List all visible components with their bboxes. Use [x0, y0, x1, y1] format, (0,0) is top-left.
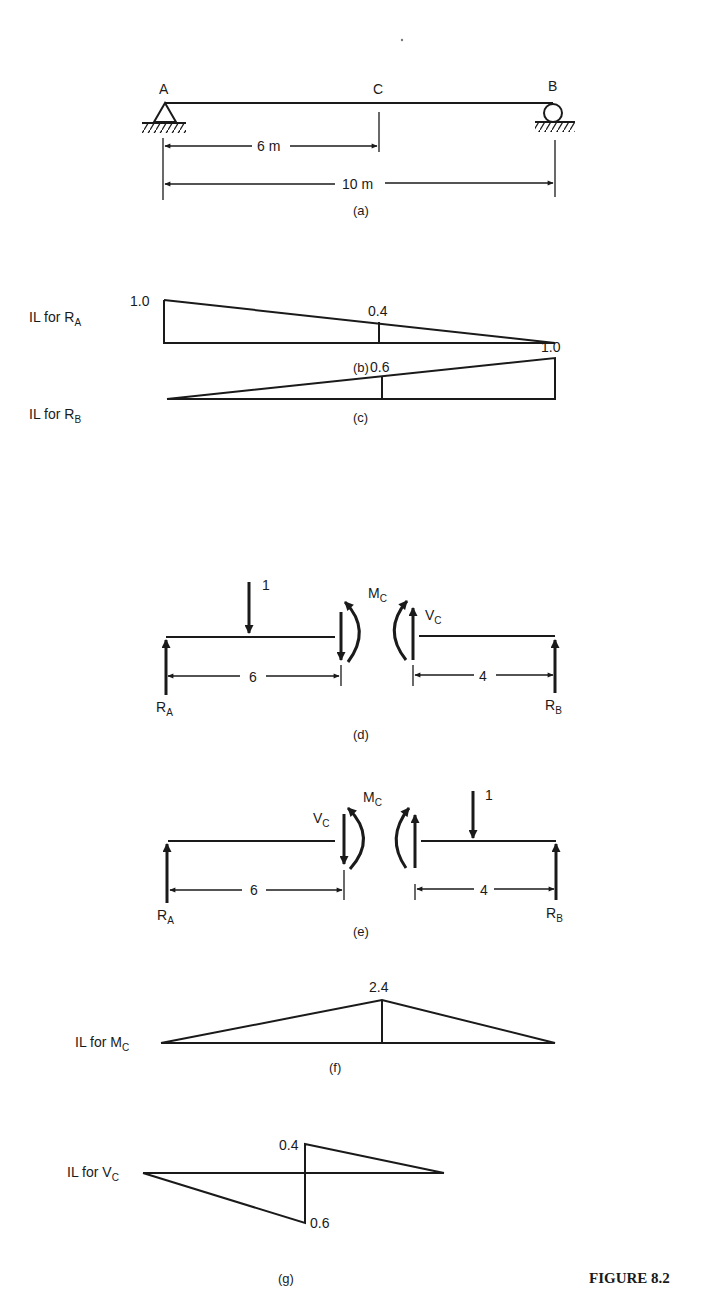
panel-d-label: (d) [353, 727, 369, 742]
moment-left-arc-icon [345, 602, 359, 662]
svg-text:VC: VC [425, 607, 442, 626]
point-a-label: A [159, 81, 169, 97]
il-rb-value-1: 1.0 [541, 339, 561, 355]
panel-a-beam: A C B 6 m 10 m (a) [142, 78, 575, 218]
il-mc-title: IL for MC [75, 1034, 129, 1053]
point-c-label: C [373, 81, 383, 97]
svg-text:MC: MC [363, 789, 382, 808]
il-ra-shape [164, 300, 555, 343]
moment-right-arc-icon [394, 601, 407, 660]
svg-text:RB: RB [545, 697, 562, 716]
figure-caption: FIGURE 8.2 [589, 1270, 670, 1286]
panel-d-free-body: 1 RA RB MC VC 6 4 (d) [156, 577, 562, 742]
il-mc-shape [161, 1000, 555, 1043]
svg-text:RB: RB [546, 905, 563, 924]
dimension-10m: 10 m [342, 176, 373, 192]
svg-text:4: 4 [479, 668, 487, 684]
panel-c-il-rb: IL for RB (c) 1.0 0.6 [29, 339, 561, 425]
panel-a-label: (a) [353, 203, 369, 218]
svg-text:RA: RA [157, 907, 174, 926]
il-ra-value-04: 0.4 [368, 303, 388, 319]
svg-text:MC: MC [368, 585, 387, 604]
svg-text:6: 6 [249, 669, 257, 685]
panel-f-il-mc: IL for MC 2.4 (f) [75, 979, 555, 1075]
panel-c-label: (c) [353, 410, 368, 425]
il-ra-title: IL for RA [29, 309, 81, 328]
il-vc-value-06: 0.6 [310, 1215, 330, 1231]
svg-text:RA: RA [156, 699, 173, 718]
il-rb-title: IL for RB [29, 406, 81, 425]
svg-text:VC: VC [313, 810, 330, 829]
point-b-label: B [548, 78, 557, 94]
svg-text:6: 6 [250, 882, 258, 898]
panel-g-il-vc: IL for VC 0.4 0.6 (g) [67, 1137, 444, 1286]
influence-line-figure: A C B 6 m 10 m (a) IL for RA 1.0 0.4 (b)… [0, 0, 715, 1304]
svg-text:4: 4 [480, 882, 488, 898]
panel-b-il-ra: IL for RA 1.0 0.4 (b) [29, 293, 555, 375]
il-ra-value-1: 1.0 [130, 293, 150, 309]
il-rb-value-06: 0.6 [370, 359, 390, 375]
moment-right-arc-icon [396, 808, 409, 868]
il-mc-value-peak: 2.4 [369, 979, 389, 995]
dimension-6m: 6 m [257, 138, 280, 154]
speck [401, 39, 403, 41]
svg-text:1: 1 [485, 787, 493, 803]
il-vc-shape [143, 1144, 444, 1223]
svg-text:1: 1 [262, 577, 270, 593]
panel-g-label: (g) [278, 1271, 294, 1286]
il-vc-title: IL for VC [67, 1164, 119, 1183]
panel-e-label: (e) [353, 924, 369, 939]
pin-support-icon [142, 103, 186, 133]
panel-b-label: (b) [353, 360, 369, 375]
il-vc-value-04: 0.4 [279, 1137, 299, 1153]
panel-f-label: (f) [329, 1060, 341, 1075]
roller-support-icon [535, 104, 575, 132]
panel-e-free-body: 1 RA RB MC VC 6 4 (e) [157, 787, 563, 939]
moment-left-arc-icon [348, 808, 364, 869]
